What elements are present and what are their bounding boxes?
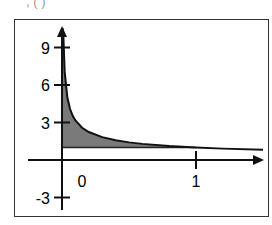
x-tick-label: 1 bbox=[192, 173, 201, 190]
y-tick-label: 6 bbox=[41, 77, 50, 94]
y-tick-label: 3 bbox=[41, 115, 50, 132]
y-axis-arrow-icon bbox=[57, 26, 67, 37]
x-tick-label: 0 bbox=[78, 173, 87, 190]
axis-ticks: 963-301 bbox=[36, 40, 201, 207]
y-tick-label: 9 bbox=[41, 40, 50, 57]
curve-line bbox=[63, 28, 263, 150]
function-plot: 963-301 bbox=[0, 0, 272, 225]
shaded-area bbox=[62, 28, 196, 148]
y-tick-label: -3 bbox=[36, 190, 50, 207]
x-axis-arrow-icon bbox=[253, 155, 264, 165]
